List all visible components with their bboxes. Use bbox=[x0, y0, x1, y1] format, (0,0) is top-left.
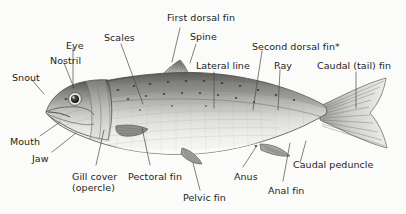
label-second-dorsal-fin: Second dorsal fin* bbox=[252, 41, 340, 52]
label-scales: Scales bbox=[104, 32, 135, 43]
label-anus: Anus bbox=[234, 171, 258, 182]
label-anal-fin: Anal fin bbox=[268, 185, 304, 196]
caudal-fin-art bbox=[320, 78, 387, 148]
anal-fin-art bbox=[260, 144, 290, 156]
label-snout: Snout bbox=[12, 72, 40, 83]
label-eye: Eye bbox=[66, 40, 84, 51]
label-mouth: Mouth bbox=[10, 136, 40, 147]
fish-anatomy-diagram: SnoutNostrilEyeScalesFirst dorsal finSpi… bbox=[0, 0, 406, 214]
label-caudal-peduncle: Caudal peduncle bbox=[293, 159, 373, 170]
label-first-dorsal-fin: First dorsal fin bbox=[167, 12, 235, 23]
label-gill-cover: Gill cover (opercle) bbox=[72, 171, 117, 193]
head-art bbox=[46, 80, 112, 142]
label-caudal-tail-fin: Caudal (tail) fin bbox=[317, 60, 391, 71]
anus-art bbox=[255, 145, 258, 147]
label-lateral-line: Lateral line bbox=[196, 60, 250, 71]
label-pectoral-fin: Pectoral fin bbox=[128, 171, 182, 182]
label-jaw: Jaw bbox=[32, 153, 49, 164]
label-pelvic-fin: Pelvic fin bbox=[183, 192, 226, 203]
label-nostril: Nostril bbox=[50, 55, 81, 66]
nostril-art bbox=[64, 98, 67, 100]
label-spine: Spine bbox=[190, 31, 217, 42]
label-ray: Ray bbox=[274, 60, 292, 71]
